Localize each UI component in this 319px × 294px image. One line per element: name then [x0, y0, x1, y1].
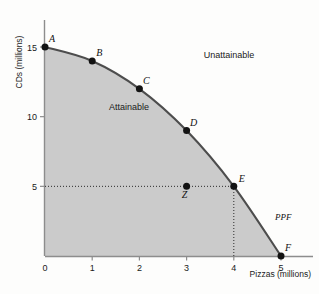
x-tick-label-2: 2	[137, 263, 142, 273]
ppf-chart-svg: 01234551015ABCDEFZAttainableUnattainable…	[0, 0, 319, 294]
data-point-E	[230, 183, 237, 190]
data-point-label-F: F	[284, 242, 292, 253]
data-point-label-C: C	[143, 75, 150, 86]
data-point-label-A: A	[48, 33, 56, 44]
data-point-B	[89, 57, 96, 64]
annotation-ppf: PPF	[274, 212, 292, 222]
data-point-D	[183, 127, 190, 134]
data-point-label-D: D	[189, 117, 198, 128]
x-tick-label-4: 4	[231, 263, 236, 273]
data-point-label-Z: Z	[182, 189, 188, 200]
y-tick-label-15: 15	[27, 43, 37, 53]
y-tick-label-10: 10	[27, 112, 37, 122]
data-point-label-E: E	[238, 173, 245, 184]
y-tick-label-5: 5	[32, 182, 37, 192]
attainable-region-fill	[45, 47, 281, 256]
x-tick-label-3: 3	[184, 263, 189, 273]
x-axis-title: Pizzas (millions)	[250, 269, 312, 279]
data-point-label-B: B	[96, 47, 102, 58]
y-axis-title: CDs (millions)	[14, 35, 24, 88]
annotation-unattainable: Unattainable	[204, 50, 255, 60]
data-point-F	[278, 253, 285, 260]
annotation-attainable: Attainable	[109, 102, 149, 112]
x-tick-label-0: 0	[42, 263, 47, 273]
data-point-A	[42, 44, 49, 51]
x-tick-label-1: 1	[90, 263, 95, 273]
data-point-C	[136, 85, 143, 92]
plot-area: 01234551015ABCDEFZAttainableUnattainable…	[14, 20, 313, 279]
ppf-chart-figure: 01234551015ABCDEFZAttainableUnattainable…	[0, 0, 319, 294]
